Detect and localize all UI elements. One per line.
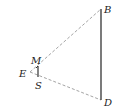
geometry-diagram: B D E M S	[0, 0, 120, 111]
label-m: M	[30, 55, 42, 66]
label-b: B	[103, 4, 111, 15]
label-s: S	[35, 80, 42, 91]
label-e: E	[18, 68, 27, 79]
label-d: D	[103, 97, 112, 108]
